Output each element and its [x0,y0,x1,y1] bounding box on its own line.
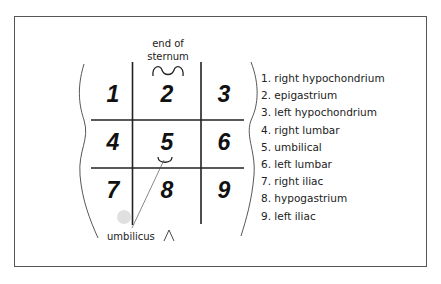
legend-item: 8. hypogastrium [261,190,385,207]
legend-item: 3. left hypochondrium [261,104,385,121]
legend-item: 9. left iliac [261,208,385,225]
pubic-mark [164,230,174,241]
umbilicus-pointer-line [132,160,164,228]
legend-item: 2. epigastrium [261,87,385,104]
body-outline-right-side [79,64,98,238]
region-number-3: 3 [218,81,231,107]
umbilicus-label: umbilicus [107,231,155,242]
sternum-mark [153,67,183,76]
legend-item: 1. right hypochondrium [261,70,385,87]
sternum-label-line2: sternum [147,51,189,62]
legend-item: 4. right lumbar [261,122,385,139]
smudge [117,210,131,224]
region-number-2: 2 [160,81,174,107]
legend-item: 5. umbilical [261,139,385,156]
region-number-1: 1 [107,81,120,107]
region-number-5: 5 [161,129,175,155]
region-number-7: 7 [107,177,121,203]
region-number-9: 9 [218,177,231,203]
sternum-label-line1: end of [152,38,184,49]
legend-item: 7. right iliac [261,173,385,190]
region-legend: 1. right hypochondrium 2. epigastrium 3.… [261,70,385,225]
legend-item: 6. left lumbar [261,156,385,173]
umbilicus-mark [158,157,172,162]
region-number-6: 6 [218,129,231,155]
region-number-8: 8 [161,177,174,203]
body-outline-left-side [241,62,257,236]
region-number-4: 4 [106,129,120,155]
